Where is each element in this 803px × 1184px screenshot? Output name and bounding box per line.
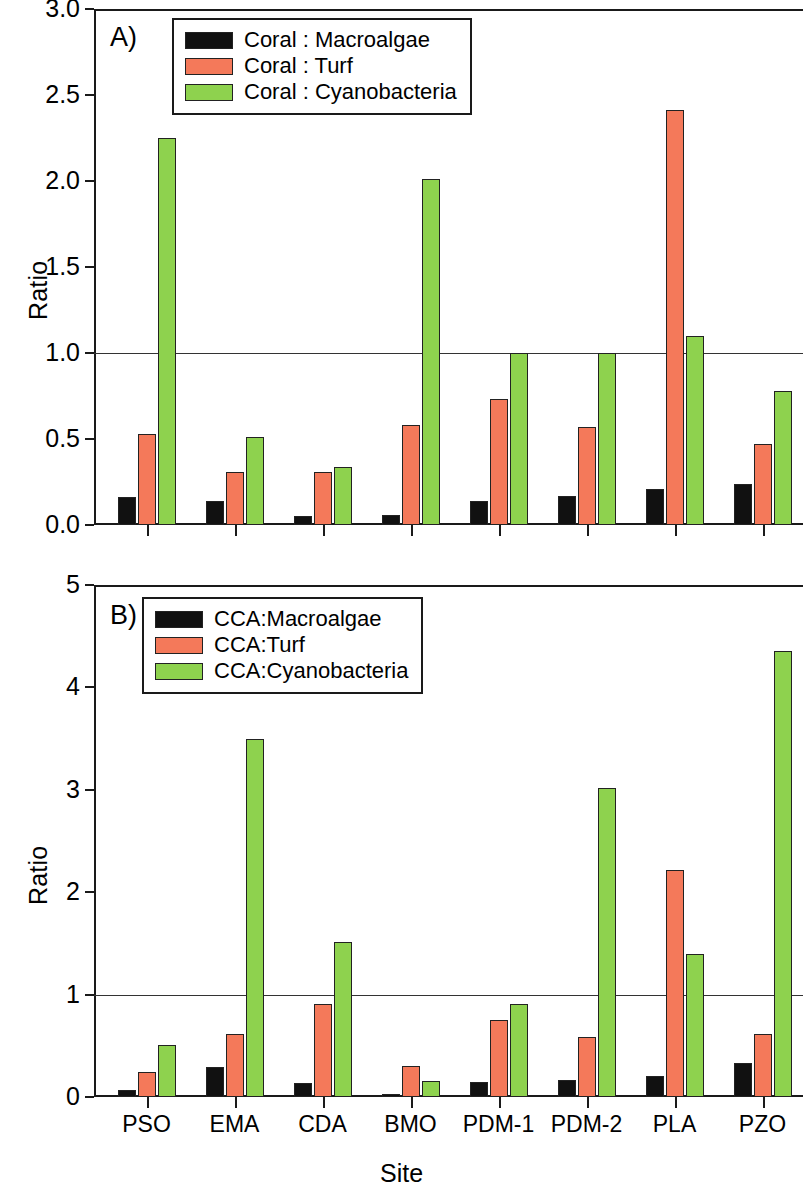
y-tick-label: 5 (66, 572, 80, 597)
x-tick-mark (675, 525, 677, 536)
bar-pso-0 (118, 1090, 136, 1097)
y-tick-label: 1.5 (45, 254, 80, 279)
x-tick-mark (147, 1097, 149, 1108)
bar-cda-0 (294, 1083, 312, 1097)
axis-frame-left-a (94, 9, 96, 525)
bar-ema-0 (206, 501, 224, 525)
y-tick-mark (85, 584, 94, 586)
y-tick-mark (85, 1096, 94, 1098)
x-tick-mark (763, 525, 765, 536)
bar-pdm-2-1 (578, 1037, 596, 1097)
x-tick-label-pdm-1: PDM-1 (463, 1111, 535, 1138)
legend-label: Coral : Cyanobacteria (244, 81, 457, 103)
x-tick-mark (587, 525, 589, 536)
bar-bmo-0 (382, 1094, 400, 1097)
bar-ema-1 (226, 472, 244, 525)
x-tick-mark (499, 1097, 501, 1108)
bar-pzo-0 (734, 484, 752, 525)
x-tick-mark (235, 1097, 237, 1108)
x-tick-mark (763, 1097, 765, 1108)
y-tick-label: 3.0 (45, 0, 80, 21)
y-tick-label: 1 (66, 982, 80, 1007)
bar-ema-2 (246, 739, 264, 1097)
bar-pzo-2 (774, 651, 792, 1097)
x-tick-mark (323, 525, 325, 536)
bar-pdm-2-2 (598, 788, 616, 1097)
legend-swatch-icon (185, 84, 233, 101)
y-tick-mark (85, 994, 94, 996)
legend-swatch-icon (155, 611, 203, 628)
legend-swatch-icon (155, 637, 203, 654)
bar-bmo-2 (422, 1081, 440, 1097)
bar-pla-1 (666, 870, 684, 1097)
bar-pla-0 (646, 489, 664, 525)
y-tick-mark (85, 438, 94, 440)
bar-cda-2 (334, 942, 352, 1097)
bar-pzo-1 (754, 1034, 772, 1097)
bar-ema-0 (206, 1067, 224, 1097)
x-tick-mark (411, 525, 413, 536)
y-tick-mark (85, 180, 94, 182)
bar-pso-2 (158, 138, 176, 525)
legend-entry: CCA:Macroalgae (155, 606, 408, 632)
bar-cda-1 (314, 472, 332, 525)
y-tick-label: 1.0 (45, 340, 80, 365)
bar-pdm-1-2 (510, 1004, 528, 1097)
bar-ema-2 (246, 437, 264, 525)
x-tick-mark (323, 1097, 325, 1108)
bar-pdm-2-0 (558, 1080, 576, 1097)
bar-pzo-2 (774, 391, 792, 525)
bar-pso-1 (138, 434, 156, 525)
y-tick-label: 3 (66, 777, 80, 802)
y-tick-label: 2.5 (45, 82, 80, 107)
axis-frame-top-a (94, 9, 803, 11)
y-tick-mark (85, 686, 94, 688)
legend-label: Coral : Macroalgae (244, 29, 430, 51)
legend-entry: Coral : Cyanobacteria (185, 79, 457, 105)
y-tick-mark (85, 352, 94, 354)
bar-pla-1 (666, 110, 684, 525)
legend-label: CCA:Macroalgae (214, 608, 382, 630)
panel-a: Ratio 0.00.51.01.52.02.53.0 Coral : Macr… (0, 0, 803, 560)
legend-b: CCA:MacroalgaeCCA:TurfCCA:Cyanobacteria (142, 597, 423, 694)
x-tick-mark (587, 1097, 589, 1108)
y-tick-mark (85, 266, 94, 268)
bar-pla-2 (686, 954, 704, 1097)
bar-bmo-1 (402, 1066, 420, 1097)
x-tick-label-pso: PSO (122, 1111, 171, 1138)
bar-cda-1 (314, 1004, 332, 1097)
legend-entry: Coral : Macroalgae (185, 27, 457, 53)
x-tick-label-bmo: BMO (384, 1111, 436, 1138)
y-tick-label: 0.0 (45, 512, 80, 537)
y-tick-label: 0 (66, 1084, 80, 1109)
bar-pdm-2-1 (578, 427, 596, 525)
y-tick-labels-b: 012345 (0, 545, 80, 1137)
bar-pdm-1-1 (490, 1020, 508, 1097)
legend-label: Coral : Turf (244, 55, 353, 77)
legend-label: CCA:Turf (214, 634, 305, 656)
panel-letter-b: B) (110, 600, 137, 631)
bar-pdm-1-0 (470, 501, 488, 525)
y-tick-mark (85, 94, 94, 96)
y-tick-mark (85, 891, 94, 893)
bar-bmo-2 (422, 179, 440, 525)
bar-pzo-1 (754, 444, 772, 525)
legend-swatch-icon (185, 32, 233, 49)
axis-frame-left-b (94, 585, 96, 1097)
x-axis-title: Site (0, 1159, 803, 1184)
bar-pzo-0 (734, 1063, 752, 1097)
x-tick-label-pzo: PZO (739, 1111, 786, 1138)
axis-frame-top-b (94, 585, 803, 587)
y-tick-labels-a: 0.00.51.01.52.02.53.0 (0, 0, 80, 565)
panel-letter-a: A) (110, 22, 137, 53)
y-tick-mark (85, 524, 94, 526)
bar-pso-1 (138, 1072, 156, 1097)
y-tick-label: 0.5 (45, 426, 80, 451)
x-tick-label-pla: PLA (653, 1111, 696, 1138)
x-tick-mark (499, 525, 501, 536)
legend-a: Coral : MacroalgaeCoral : TurfCoral : Cy… (172, 18, 472, 115)
x-tick-mark (675, 1097, 677, 1108)
legend-entry: CCA:Cyanobacteria (155, 658, 408, 684)
x-tick-mark (235, 525, 237, 536)
x-tick-label-cda: CDA (298, 1111, 347, 1138)
